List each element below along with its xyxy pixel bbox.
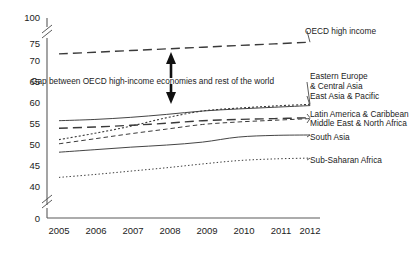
x-tick-label: 2007 bbox=[122, 225, 143, 236]
y-tick-label: 75 bbox=[29, 38, 40, 49]
x-tick-label: 2005 bbox=[48, 225, 69, 236]
series-label-south-asia: South Asia bbox=[310, 132, 350, 142]
y-tick-label: 60 bbox=[29, 97, 40, 108]
x-tick-label: 2006 bbox=[85, 225, 106, 236]
series-line-south-asia bbox=[59, 135, 310, 152]
series-line-oecd-high-income bbox=[59, 42, 310, 54]
x-tick-label: 2010 bbox=[233, 225, 254, 236]
chart-container: 100 75 70 65 60 55 50 45 40 0 2005 2006 … bbox=[0, 0, 417, 253]
series-line-sub-saharan-africa bbox=[59, 158, 310, 177]
series-label-east-asia-pacific: East Asia & Pacific bbox=[310, 91, 379, 101]
series-label-eastern-europe-line1: Eastern Europe bbox=[310, 71, 368, 81]
y-tick-label: 0 bbox=[35, 213, 40, 224]
line-chart: 100 75 70 65 60 55 50 45 40 0 2005 2006 … bbox=[0, 0, 417, 253]
x-tick-label: 2011 bbox=[271, 225, 291, 236]
y-tick-label: 100 bbox=[24, 12, 40, 23]
x-tick-label: 2008 bbox=[159, 225, 180, 236]
gap-annotation: Gap between OECD high-income economies a… bbox=[31, 52, 274, 104]
series-line-eastern-europe-central-asia bbox=[59, 104, 310, 139]
series-layer bbox=[59, 42, 310, 177]
y-tick-label: 40 bbox=[29, 181, 40, 192]
y-tick-label: 70 bbox=[29, 55, 40, 66]
series-label-oecd-high-income: OECD high income bbox=[305, 26, 376, 36]
x-tick-label: 2009 bbox=[196, 225, 217, 236]
series-line-middle-east-north-africa bbox=[59, 119, 310, 144]
x-tick-label: 2012 bbox=[299, 225, 320, 236]
series-label-middle-east: Middle East & North Africa bbox=[310, 118, 407, 128]
gap-annotation-text: Gap between OECD high-income economies a… bbox=[31, 76, 274, 86]
y-tick-label: 50 bbox=[29, 139, 40, 150]
y-tick-label: 55 bbox=[29, 118, 40, 129]
series-label-eastern-europe-line2: & Central Asia bbox=[310, 81, 363, 91]
gap-arrow-up-head bbox=[166, 52, 176, 64]
gap-arrow-down-head bbox=[166, 92, 176, 104]
series-label-sub-saharan: Sub-Saharan Africa bbox=[310, 155, 382, 165]
y-tick-label: 45 bbox=[29, 160, 40, 171]
